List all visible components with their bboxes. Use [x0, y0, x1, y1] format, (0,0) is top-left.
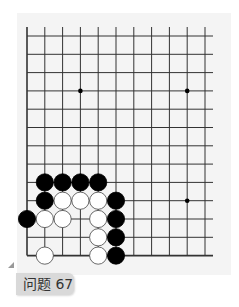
- white-stone[interactable]: [90, 210, 107, 227]
- white-stone[interactable]: [54, 210, 71, 227]
- white-stone[interactable]: [36, 210, 53, 227]
- black-stone[interactable]: [36, 192, 53, 209]
- black-stone[interactable]: [54, 174, 71, 191]
- white-stone[interactable]: [72, 192, 89, 209]
- black-stone[interactable]: [36, 174, 53, 191]
- white-stone[interactable]: [90, 192, 107, 209]
- black-stone[interactable]: [72, 174, 89, 191]
- white-stone[interactable]: [36, 247, 53, 264]
- black-stone[interactable]: [90, 174, 107, 191]
- black-stone[interactable]: [107, 210, 124, 227]
- black-stone[interactable]: [18, 210, 35, 227]
- white-stone[interactable]: [90, 247, 107, 264]
- white-stone[interactable]: [54, 192, 71, 209]
- black-stone[interactable]: [107, 192, 124, 209]
- corner-marker-icon: [8, 262, 14, 268]
- star-point-icon: [185, 89, 190, 94]
- black-stone[interactable]: [107, 247, 124, 264]
- black-stone[interactable]: [107, 229, 124, 246]
- problem-label: 问题 67: [16, 273, 74, 295]
- star-point-icon: [185, 198, 190, 203]
- go-board[interactable]: [0, 0, 239, 307]
- white-stone[interactable]: [90, 229, 107, 246]
- star-point-icon: [78, 89, 83, 94]
